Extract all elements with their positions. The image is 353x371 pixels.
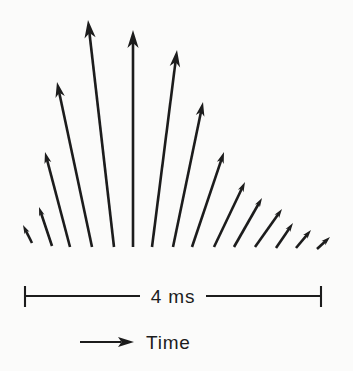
time-legend: Time — [80, 332, 191, 353]
scale-bar: 4 ms — [25, 286, 321, 307]
vector-shaft — [89, 33, 114, 248]
vector-shaft — [317, 241, 325, 249]
vector-shaft — [41, 213, 52, 246]
vector-arrow — [317, 237, 330, 249]
scale-bar-label: 4 ms — [151, 286, 195, 307]
vector-fan — [23, 20, 330, 249]
vector-arrow — [39, 207, 52, 246]
vector-shaft — [152, 62, 176, 247]
vector-shaft — [173, 112, 201, 247]
vector-shaft — [47, 160, 70, 247]
vector-shaft — [234, 204, 259, 248]
vector-arrow — [255, 209, 282, 247]
vector-shaft — [192, 160, 221, 247]
vector-shaft — [26, 231, 32, 243]
vector-arrow — [276, 223, 293, 248]
vector-shaft — [296, 235, 307, 248]
figure: 4 ms Time — [0, 0, 353, 371]
vector-fan-diagram: 4 ms Time — [0, 0, 353, 371]
vector-shaft — [255, 214, 278, 247]
vector-arrow — [127, 30, 138, 247]
vector-arrow — [23, 225, 32, 243]
vector-arrow — [192, 152, 224, 247]
vector-shaft — [276, 228, 290, 248]
vector-arrow — [56, 82, 93, 247]
time-label: Time — [146, 332, 191, 353]
vector-arrow — [85, 20, 115, 247]
vector-arrow — [152, 50, 180, 247]
vector-arrow — [234, 198, 262, 247]
vector-arrow — [296, 230, 311, 248]
